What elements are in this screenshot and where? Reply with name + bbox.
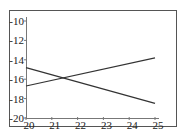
chart-frame [10, 11, 177, 127]
x-tick-label: 23 [101, 119, 113, 131]
x-tick-label: 22 [75, 119, 86, 131]
x-tick-label: 25 [153, 119, 165, 131]
line-chart: -10-12-14-16-18-20 202122232425 [0, 0, 184, 136]
y-tick-label: -10 [9, 15, 24, 27]
y-tick-label: -16 [9, 73, 24, 85]
x-tick-label: 24 [127, 119, 139, 131]
y-tick-label: -12 [9, 34, 24, 46]
chart-canvas: -10-12-14-16-18-20 202122232425 [0, 0, 184, 136]
x-tick-label: 20 [24, 119, 36, 131]
y-tick-label: -20 [9, 112, 24, 124]
y-tick-label: -14 [9, 54, 24, 66]
y-tick-label: -18 [9, 93, 24, 105]
x-tick-label: 21 [49, 119, 60, 131]
